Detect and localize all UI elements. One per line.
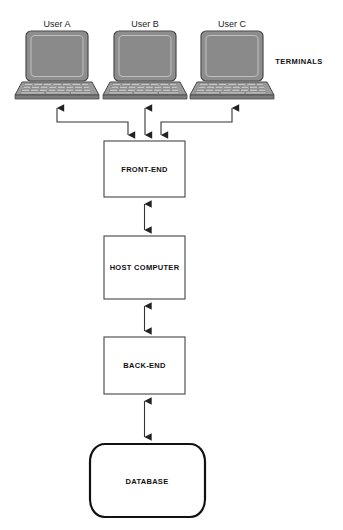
node-label-front-end: FRONT-END bbox=[121, 165, 168, 174]
terminals-group-label: TERMINALS bbox=[275, 57, 322, 66]
laptop-icon bbox=[15, 31, 99, 99]
node-label-database: DATABASE bbox=[126, 477, 169, 486]
node-back-end[interactable]: BACK-END bbox=[104, 337, 185, 394]
terminal-user-a[interactable]: User A bbox=[15, 19, 99, 99]
connection-user-c-to-front-end bbox=[161, 108, 232, 135]
terminal-label-user-b: User B bbox=[131, 19, 159, 29]
node-front-end[interactable]: FRONT-END bbox=[104, 141, 185, 197]
connection-user-a-to-front-end bbox=[57, 108, 128, 135]
diagram-canvas: User A bbox=[0, 0, 343, 530]
node-database[interactable]: DATABASE bbox=[90, 444, 205, 517]
terminal-label-user-a: User A bbox=[43, 19, 70, 29]
node-host-computer[interactable]: HOST COMPUTER bbox=[104, 236, 185, 299]
terminal-user-c[interactable]: User C bbox=[190, 19, 274, 99]
node-label-host-computer: HOST COMPUTER bbox=[110, 263, 180, 272]
terminal-user-b[interactable]: User B bbox=[103, 19, 187, 99]
terminal-label-user-c: User C bbox=[218, 19, 247, 29]
node-label-back-end: BACK-END bbox=[123, 361, 166, 370]
laptop-icon bbox=[103, 31, 187, 99]
laptop-icon bbox=[190, 31, 274, 99]
network-architecture-diagram: User A bbox=[0, 0, 343, 530]
